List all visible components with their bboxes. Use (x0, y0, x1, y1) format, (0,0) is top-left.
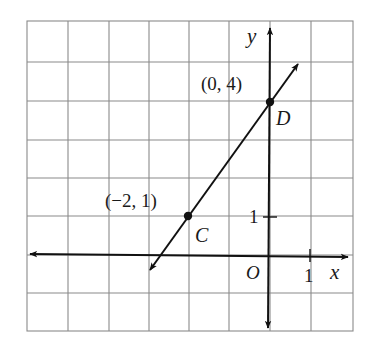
x-axis-label: x (330, 262, 339, 283)
point-d-name-label: D (276, 108, 290, 128)
point-d-coords-label: (0, 4) (201, 74, 242, 93)
origin-label: O (246, 263, 260, 282)
point-d (266, 98, 274, 106)
point-c (184, 212, 192, 220)
point-c-name-label: C (195, 225, 208, 245)
y-axis-label: y (247, 26, 256, 47)
y-tick-label: 1 (249, 207, 259, 226)
x-tick-label: 1 (304, 266, 314, 285)
line-cd (150, 64, 298, 270)
coordinate-plane-figure: y x O 1 1 (0, 4) D (−2, 1) C (0, 0, 372, 340)
graph-canvas (0, 0, 372, 340)
point-c-coords-label: (−2, 1) (105, 191, 157, 210)
